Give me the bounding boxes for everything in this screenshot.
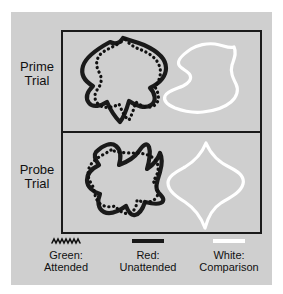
legend-white-line1: White: [187,249,271,261]
row-label-prime-line2: Trial [12,74,62,88]
solid-white-line-swatch-icon [213,237,245,246]
legend-red-line2: Unattended [107,261,189,273]
dotted-wavy-line-swatch-icon [51,237,81,246]
panel-probe-trial [63,135,264,236]
red-unattended-shape-probe [87,144,163,215]
white-swatch-bar [213,239,245,243]
row-label-probe-line2: Trial [12,177,62,191]
red-unattended-shape-prime [82,38,166,122]
legend-item-white: White: Comparison [187,237,271,273]
white-comparison-shape-probe [168,143,243,228]
row-label-prime: Prime Trial [12,60,62,88]
red-swatch-bar [132,239,164,243]
legend-item-green: Green: Attended [23,237,109,273]
figure-root: Prime Trial Probe Trial [0,0,283,294]
legend-red-line1: Red: [107,249,189,261]
legend-green-line2: Attended [23,261,109,273]
row-label-probe-line1: Probe [12,163,62,177]
legend-white-line2: Comparison [187,261,271,273]
row-label-probe: Probe Trial [12,163,62,191]
row-label-prime-line1: Prime [12,60,62,74]
panel-prime-trial [63,32,264,133]
legend-green-line1: Green: [23,249,109,261]
solid-thick-line-swatch-icon [132,237,164,246]
panel-divider [61,131,262,133]
legend: Green: Attended Red: Unattended White: C… [11,237,272,281]
legend-item-red: Red: Unattended [107,237,189,273]
white-comparison-shape-prime [165,44,238,113]
